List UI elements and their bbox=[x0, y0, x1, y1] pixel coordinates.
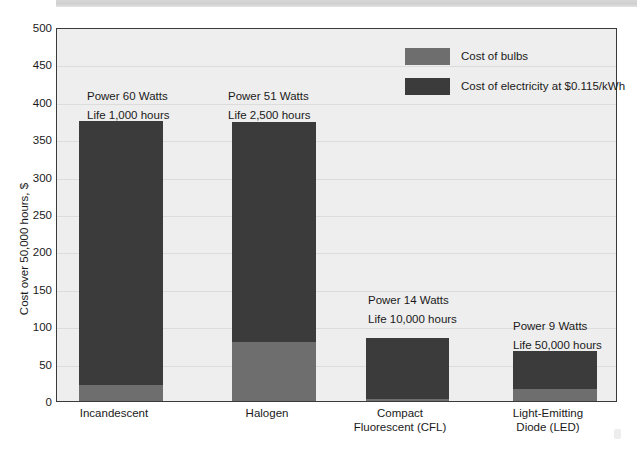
y-tick-400: 400 bbox=[6, 97, 52, 109]
bar-segment-bulbs-cfl bbox=[366, 399, 449, 401]
bar-segment-electricity-halogen bbox=[232, 122, 316, 342]
y-tick-0: 0 bbox=[6, 396, 52, 408]
annotation-halogen-life: Life 2,500 hours bbox=[228, 106, 310, 125]
annotation-incandescent: Power 60 Watts Life 1,000 hours bbox=[87, 87, 169, 125]
bar-chart: Cost over 50,000 hours, $ 500 450 400 35… bbox=[0, 0, 637, 455]
annotation-incandescent-life: Life 1,000 hours bbox=[87, 106, 169, 125]
x-tick-compact-fluorescent: Compact Fluorescent (CFL) bbox=[334, 406, 466, 434]
bar-segment-electricity-incandescent bbox=[79, 121, 163, 385]
y-tick-100: 100 bbox=[6, 321, 52, 333]
bar-segment-bulbs-halogen bbox=[232, 342, 316, 401]
legend: Cost of bulbs Cost of electricity at $0.… bbox=[405, 41, 615, 101]
legend-label-bulbs: Cost of bulbs bbox=[461, 50, 528, 62]
legend-item-bulbs[interactable]: Cost of bulbs bbox=[405, 41, 615, 71]
plot-area: Cost of bulbs Cost of electricity at $0.… bbox=[56, 28, 617, 402]
annotation-cfl-power: Power 14 Watts bbox=[368, 291, 457, 310]
bar-halogen[interactable] bbox=[232, 122, 316, 401]
x-tick-light-emitting-diode: Light-Emitting Diode (LED) bbox=[482, 406, 614, 434]
y-tick-50: 50 bbox=[6, 359, 52, 371]
annotation-led-life: Life 50,000 hours bbox=[513, 336, 602, 355]
y-tick-350: 350 bbox=[6, 134, 52, 146]
bar-segment-electricity-led bbox=[513, 351, 597, 389]
annotation-incandescent-power: Power 60 Watts bbox=[87, 87, 169, 106]
legend-swatch-electricity bbox=[405, 78, 450, 95]
x-tick-halogen-line1: Halogen bbox=[201, 406, 333, 420]
bar-segment-bulbs-led bbox=[513, 389, 597, 401]
y-tick-150: 150 bbox=[6, 284, 52, 296]
y-tick-500: 500 bbox=[6, 22, 52, 34]
legend-swatch-bulbs bbox=[405, 48, 450, 65]
x-tick-cfl-line1: Compact bbox=[334, 406, 466, 420]
x-tick-incandescent-line1: Incandescent bbox=[48, 406, 180, 420]
legend-label-electricity: Cost of electricity at $0.115/kWh bbox=[461, 80, 625, 92]
x-tick-led-line1: Light-Emitting bbox=[482, 406, 614, 420]
y-tick-250: 250 bbox=[6, 209, 52, 221]
y-tick-300: 300 bbox=[6, 172, 52, 184]
legend-item-electricity[interactable]: Cost of electricity at $0.115/kWh bbox=[405, 71, 615, 101]
annotation-led-power: Power 9 Watts bbox=[513, 317, 602, 336]
annotation-cfl-life: Life 10,000 hours bbox=[368, 310, 457, 329]
bar-incandescent[interactable] bbox=[79, 121, 163, 402]
x-tick-led-line2: Diode (LED) bbox=[482, 420, 614, 434]
bar-segment-electricity-cfl bbox=[366, 338, 449, 399]
bar-compact-fluorescent[interactable] bbox=[366, 338, 449, 401]
y-axis: Cost over 50,000 hours, $ 500 450 400 35… bbox=[0, 28, 52, 402]
x-tick-incandescent: Incandescent bbox=[48, 406, 180, 420]
bar-segment-bulbs-incandescent bbox=[79, 385, 163, 402]
y-tick-450: 450 bbox=[6, 59, 52, 71]
annotation-cfl: Power 14 Watts Life 10,000 hours bbox=[368, 291, 457, 329]
annotation-led: Power 9 Watts Life 50,000 hours bbox=[513, 317, 602, 355]
annotation-halogen: Power 51 Watts Life 2,500 hours bbox=[228, 87, 310, 125]
y-tick-200: 200 bbox=[6, 246, 52, 258]
x-tick-halogen: Halogen bbox=[201, 406, 333, 420]
chart-page: Cost over 50,000 hours, $ 500 450 400 35… bbox=[0, 0, 637, 455]
page-corner-artifact bbox=[614, 429, 621, 439]
annotation-halogen-power: Power 51 Watts bbox=[228, 87, 310, 106]
x-tick-cfl-line2: Fluorescent (CFL) bbox=[334, 420, 466, 434]
bar-light-emitting-diode[interactable] bbox=[513, 351, 597, 401]
